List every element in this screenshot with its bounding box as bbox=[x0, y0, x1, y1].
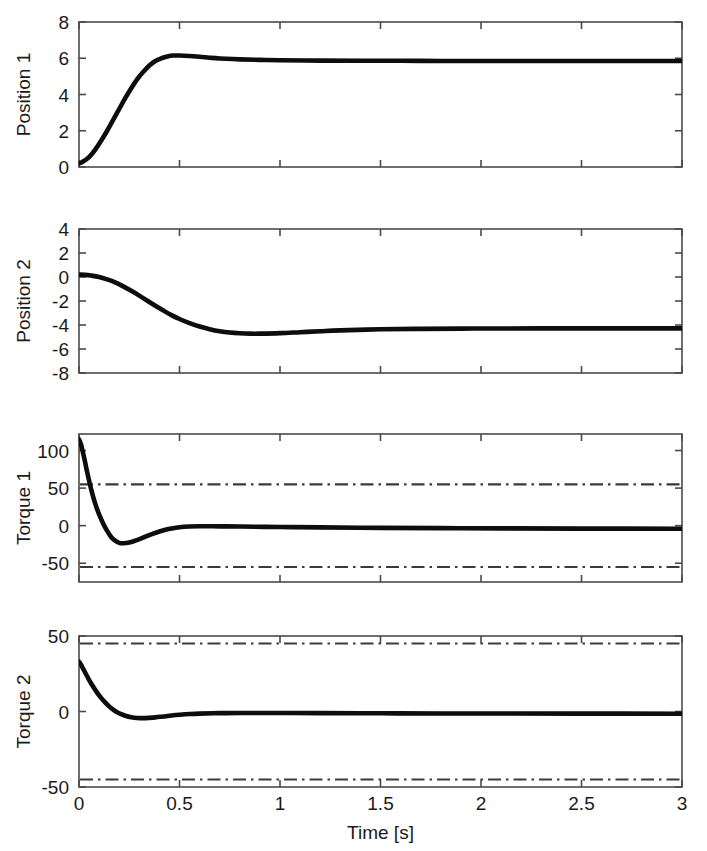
y-tick-label: 4 bbox=[58, 219, 69, 240]
x-tick-label: 3 bbox=[677, 793, 688, 814]
y-tick-label: -50 bbox=[42, 553, 69, 574]
y-tick-label: 2 bbox=[58, 121, 69, 142]
y-tick-label: 6 bbox=[58, 48, 69, 69]
data-curve-torque-1 bbox=[79, 439, 682, 543]
x-tick-label: 2.5 bbox=[568, 793, 594, 814]
plot-panel-torque-2: -5005000.511.522.53Torque 2Time [s] bbox=[13, 626, 687, 843]
y-tick-label: 2 bbox=[58, 243, 69, 264]
x-tick-label: 0 bbox=[74, 793, 85, 814]
y-tick-label: 0 bbox=[58, 157, 69, 178]
y-axis-title: Position 1 bbox=[13, 53, 34, 136]
data-curve-position-2 bbox=[79, 275, 682, 334]
y-tick-label: 100 bbox=[37, 441, 69, 462]
y-tick-label: 50 bbox=[48, 478, 69, 499]
plot-box-frame bbox=[79, 434, 682, 582]
y-tick-label: -6 bbox=[52, 339, 69, 360]
data-curve-position-1 bbox=[79, 55, 682, 163]
x-axis-title: Time [s] bbox=[347, 822, 414, 843]
plot-panel-position-2: -8-6-4-2024Position 2 bbox=[13, 219, 682, 384]
y-tick-label: 0 bbox=[58, 516, 69, 537]
y-tick-label: 50 bbox=[48, 626, 69, 647]
plot-panel-torque-1: -50050100Torque 1 bbox=[13, 434, 682, 582]
y-tick-label: 0 bbox=[58, 702, 69, 723]
plot-box-frame bbox=[79, 229, 682, 373]
y-tick-label: -8 bbox=[52, 363, 69, 384]
y-axis-title: Torque 2 bbox=[13, 675, 34, 749]
y-tick-label: -4 bbox=[52, 315, 69, 336]
x-tick-label: 0.5 bbox=[166, 793, 192, 814]
simulation-results-figure: 02468Position 1-8-6-4-2024Position 2-500… bbox=[0, 0, 707, 851]
x-tick-label: 1.5 bbox=[367, 793, 393, 814]
y-tick-label: 0 bbox=[58, 267, 69, 288]
plot-panel-position-1: 02468Position 1 bbox=[13, 12, 682, 178]
y-tick-label: -2 bbox=[52, 291, 69, 312]
x-tick-label: 2 bbox=[476, 793, 487, 814]
y-axis-title: Position 2 bbox=[13, 259, 34, 342]
plot-box-frame bbox=[79, 22, 682, 167]
figure-canvas: 02468Position 1-8-6-4-2024Position 2-500… bbox=[0, 0, 707, 851]
y-tick-label: 4 bbox=[58, 85, 69, 106]
data-curve-torque-2 bbox=[79, 662, 682, 718]
y-axis-title: Torque 1 bbox=[13, 471, 34, 545]
y-tick-label: -50 bbox=[42, 777, 69, 798]
y-tick-label: 8 bbox=[58, 12, 69, 33]
x-tick-label: 1 bbox=[275, 793, 286, 814]
